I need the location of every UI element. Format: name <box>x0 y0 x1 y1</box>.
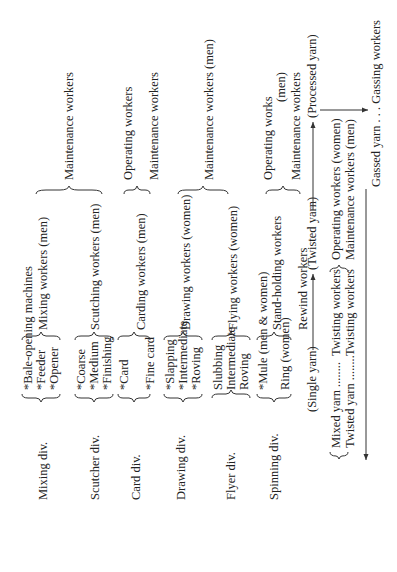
brace-flyer-right <box>212 332 250 340</box>
brace-scutcher-machines <box>75 394 113 402</box>
brace-drawing-right <box>164 332 202 340</box>
brace-mixing-right <box>22 332 60 340</box>
brace-spinning-machines <box>257 394 291 402</box>
brace-spinning-right <box>257 332 291 340</box>
brace-card-operating <box>124 186 150 194</box>
brace-flyer-machines <box>212 390 250 398</box>
brace-mixed-twisted <box>330 452 348 459</box>
connector-graphics <box>0 0 397 572</box>
brace-card-machines <box>118 394 150 402</box>
brace-maintenance-mixing <box>36 186 102 194</box>
textile-division-diagram: Mixing div. Scutcher div. Card div. Draw… <box>0 0 397 572</box>
brace-mixing-machines <box>22 394 60 402</box>
brace-maintenance-drawing <box>178 186 228 194</box>
brace-card-right <box>118 332 150 340</box>
brace-scutcher-right <box>75 332 113 340</box>
brace-maintenance-spinning <box>266 186 300 194</box>
brace-drawing-machines <box>164 394 202 402</box>
brace-twisting-right <box>330 265 348 272</box>
